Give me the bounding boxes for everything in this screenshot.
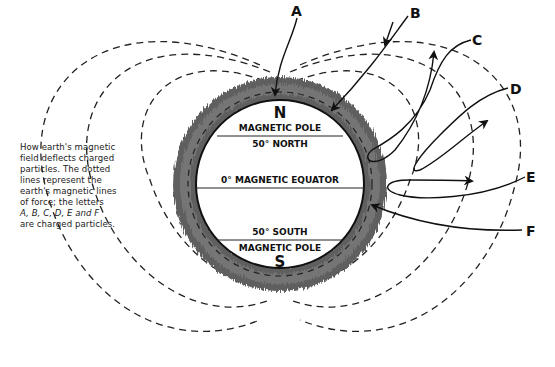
magnetic-equator-label: 0° MAGNETIC EQUATOR (221, 175, 339, 185)
latitude-50-south-label: 50° SOUTH (252, 227, 307, 237)
south-magnetic-pole-label: MAGNETIC POLE (239, 243, 321, 253)
particle-label-b: B (410, 5, 421, 21)
particle-path-b (332, 16, 408, 110)
particle-path-e (388, 177, 525, 198)
caption-line: are charged particles. (20, 219, 121, 230)
north-pole-letter: N (274, 104, 287, 122)
diagram-canvas: N MAGNETIC POLE 50° NORTH 0° MAGNETIC EQ… (0, 0, 555, 367)
caption-line: of force; the letters (20, 197, 121, 208)
north-magnetic-pole-label: MAGNETIC POLE (239, 123, 321, 133)
caption-line: particles. The dotted (20, 164, 121, 175)
particle-label-e: E (526, 169, 536, 185)
particle-label-d: D (510, 81, 522, 97)
latitude-50-north-label: 50° NORTH (252, 139, 308, 149)
particle-path-f (372, 205, 522, 230)
caption-line: lines represent the (20, 175, 121, 186)
south-pole-letter: S (275, 253, 286, 271)
particle-label-f: F (526, 223, 536, 239)
diagram-caption: How earth's magnetic field deflects char… (20, 142, 121, 230)
particle-path-c (368, 40, 471, 162)
caption-line: earth's magnetic lines (20, 186, 121, 197)
particle-label-a: A (291, 3, 302, 19)
particle-label-c: C (472, 32, 482, 48)
caption-line: How earth's magnetic (20, 142, 121, 153)
caption-line: A, B, C, D, E and F (20, 208, 121, 219)
particle-path-d (414, 88, 508, 171)
caption-line: field deflects charged (20, 153, 121, 164)
